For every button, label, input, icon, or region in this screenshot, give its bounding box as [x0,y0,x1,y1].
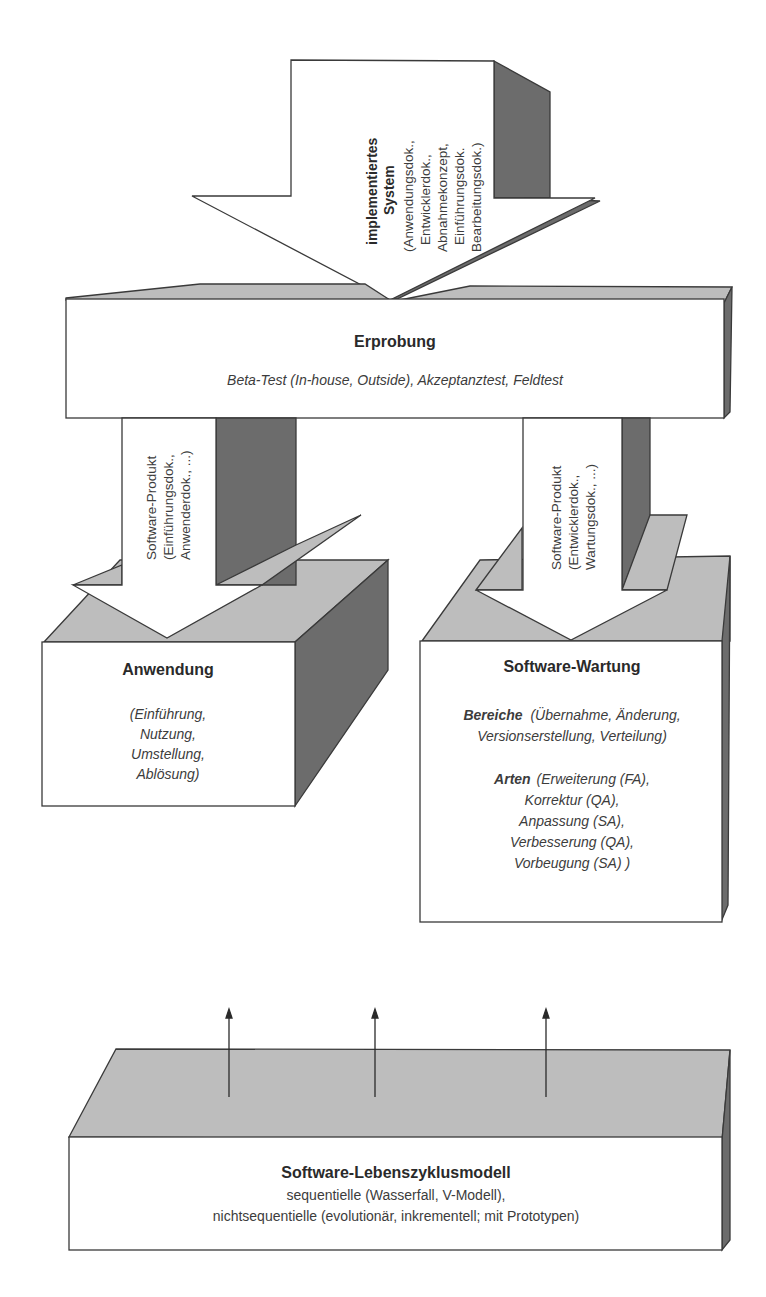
left-arrow-line: Software-Produkt [144,455,159,560]
doc-line: Einführungsdok. [452,147,467,245]
lifecycle-diagram: implementiertes System (Anwendungsdok., … [0,0,766,1297]
right-arrow-line: Software-Produkt [549,465,564,570]
erprobung-box: Erprobung Beta-Test (In-house, Outside),… [66,284,732,418]
anwendung-line: (Einführung, [130,706,206,722]
doc-line: Abnahmekonzept, [435,143,450,252]
erprobung-subtitle: Beta-Test (In-house, Outside), Akzeptanz… [227,372,564,388]
anwendung-title: Anwendung [122,661,214,678]
arten-line: Anpassung (SA), [518,813,625,829]
wartung-bereiche: Bereiche (Übernahme, Änderung, [463,706,680,723]
bereiche-label: Bereiche [463,707,522,723]
implemented-system-title-1: implementiertes [364,137,380,245]
left-arrow-line: (Einführungsdok., [161,454,176,560]
bereiche-line: Versionserstellung, Verteilung) [477,728,667,744]
arten-line: (Erweiterung (FA), [537,771,650,787]
left-arrow-line: Anwenderdok., ...) [178,450,193,560]
wartung-arten: Arten (Erweiterung (FA), [493,771,650,787]
wartung-title: Software-Wartung [503,658,640,675]
right-arrow-line: Wartungsdok., ...) [583,464,598,570]
arten-label: Arten [493,771,531,787]
bereiche-line: (Übernahme, Änderung, [530,706,680,723]
arten-line: Vorbeugung (SA) ) [514,855,630,871]
implemented-system-title-2: System [381,165,397,215]
arten-line: Korrektur (QA), [525,792,620,808]
lebenszyklus-line: sequentielle (Wasserfall, V-Modell), [287,1187,506,1203]
arten-line: Verbesserung (QA), [510,834,634,850]
doc-line: (Anwendungsdok., [401,140,416,252]
lebenszyklus-box: Software-Lebenszyklusmodell sequentielle… [69,1049,730,1250]
lebenszyklus-title: Software-Lebenszyklusmodell [281,1164,510,1181]
lebenszyklus-line: nichtsequentielle (evolutionär, inkremen… [213,1208,580,1224]
doc-line: Entwicklerdok., [418,154,433,245]
anwendung-line: Umstellung, [131,746,205,762]
doc-line: Bearbeitungsdok.) [469,142,484,252]
anwendung-line: Ablösung) [135,766,199,782]
erprobung-title: Erprobung [354,333,436,350]
right-arrow-line: (Entwicklerdok., [566,475,581,570]
anwendung-line: Nutzung, [140,726,196,742]
